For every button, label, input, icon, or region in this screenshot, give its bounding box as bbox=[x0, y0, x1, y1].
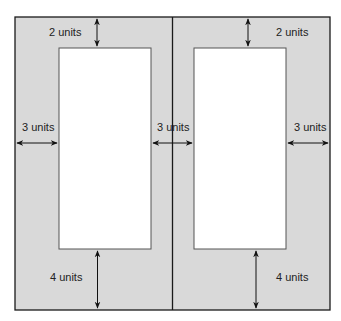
right-bottom-margin-label: 4 units bbox=[276, 271, 309, 283]
left-outer-margin-label: 3 units bbox=[22, 121, 55, 133]
two-page-spread-margin-diagram: 2 units 3 units 3 units 4 units 2 units … bbox=[0, 0, 341, 321]
right-top-margin-label: 2 units bbox=[276, 26, 309, 38]
left-text-block bbox=[59, 48, 151, 249]
left-bottom-margin-label: 4 units bbox=[50, 271, 83, 283]
right-text-block bbox=[194, 48, 286, 249]
inner-margin-label: 3 units bbox=[157, 121, 190, 133]
right-outer-margin-label: 3 units bbox=[294, 121, 327, 133]
left-top-margin-label: 2 units bbox=[49, 26, 82, 38]
